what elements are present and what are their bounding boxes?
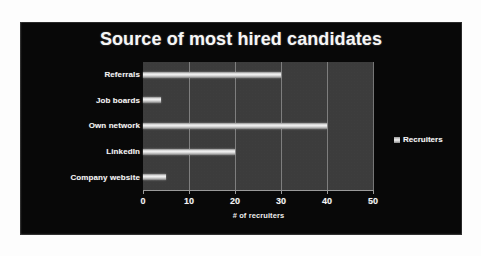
legend-swatch-icon bbox=[394, 137, 400, 143]
plot-area bbox=[143, 62, 373, 190]
x-axis-title: # of recruiters bbox=[143, 211, 374, 220]
gridline bbox=[327, 62, 328, 190]
bar[interactable] bbox=[143, 123, 327, 129]
gridline bbox=[373, 62, 374, 190]
x-axis-tick-label: 50 bbox=[358, 196, 388, 206]
bar-row bbox=[143, 139, 235, 165]
x-axis-tick-label: 20 bbox=[220, 196, 250, 206]
bar-row bbox=[143, 113, 327, 139]
x-axis-tick bbox=[327, 190, 328, 194]
y-axis-tick-label: Company website bbox=[38, 164, 143, 190]
x-axis-tick bbox=[189, 190, 190, 194]
y-axis-tick-label: Own network bbox=[38, 113, 143, 139]
y-axis-tick-label: Referrals bbox=[38, 62, 143, 88]
y-axis-tick-label: Job boards bbox=[38, 88, 143, 114]
x-axis-tick bbox=[373, 190, 374, 194]
bar[interactable] bbox=[143, 174, 166, 180]
x-axis-tick bbox=[281, 190, 282, 194]
y-axis-category-labels: Referrals Job boards Own network LinkedI… bbox=[38, 62, 143, 190]
x-axis-tick-label: 10 bbox=[174, 196, 204, 206]
bar[interactable] bbox=[143, 72, 281, 78]
bar-row bbox=[143, 62, 281, 88]
chart-container: Source of most hired candidates Source o… bbox=[20, 22, 462, 235]
bar[interactable] bbox=[143, 149, 235, 155]
chart-screenshot: Source of most hired candidates Source o… bbox=[0, 0, 481, 256]
chart-title: Source of most hired candidates bbox=[20, 29, 462, 50]
x-axis-tick bbox=[143, 190, 144, 194]
x-axis-tick-label: 40 bbox=[312, 196, 342, 206]
chart-legend: Recruiters bbox=[394, 135, 443, 144]
bar-row bbox=[143, 164, 166, 190]
x-axis-tick bbox=[235, 190, 236, 194]
x-axis-line bbox=[143, 190, 374, 191]
x-axis-tick-label: 0 bbox=[128, 196, 158, 206]
bar[interactable] bbox=[143, 97, 161, 103]
bar-row bbox=[143, 88, 161, 114]
x-axis-tick-label: 30 bbox=[266, 196, 296, 206]
legend-entry-label: Recruiters bbox=[403, 135, 443, 144]
y-axis-tick-label: LinkedIn bbox=[38, 139, 143, 165]
